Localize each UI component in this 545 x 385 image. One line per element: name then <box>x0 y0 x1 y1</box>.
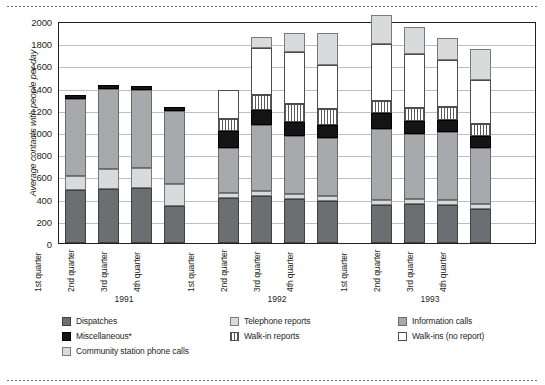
legend-swatch-walkin <box>398 332 407 341</box>
legend-swatch-misc <box>62 332 71 341</box>
bar-segment <box>218 148 239 194</box>
legend-item[interactable]: Telephone reports <box>230 316 310 326</box>
bar-column <box>218 90 239 243</box>
bar-segment <box>437 107 458 120</box>
y-axis-tick-labels: 2000180016001400120010008006004002000 <box>0 22 56 244</box>
bar-column <box>131 86 152 243</box>
x-tick-label: 4th quarter <box>132 246 178 292</box>
bar-segment <box>98 89 119 169</box>
bar-column <box>284 33 305 243</box>
bar-segment <box>131 188 152 244</box>
legend-item[interactable]: Walk-in reports <box>230 331 299 341</box>
bar-segment <box>371 113 392 129</box>
bar-segment <box>317 109 338 125</box>
bar-segment <box>65 99 86 177</box>
bar-segment <box>251 125 272 192</box>
bar-segment <box>470 49 491 80</box>
bar-segment <box>218 119 239 131</box>
y-tick-label: 1000 <box>31 128 52 139</box>
bar-segment <box>317 33 338 65</box>
x-tick-label: 4th quarter <box>285 246 331 292</box>
legend-label: Telephone reports <box>244 316 310 326</box>
y-tick-label: 1400 <box>31 83 52 94</box>
legend-swatch-walkinrep <box>230 332 239 341</box>
bar-column <box>317 33 338 243</box>
bar-segment <box>98 189 119 243</box>
bar-segment <box>164 111 185 184</box>
y-tick-label: 600 <box>36 172 52 183</box>
bar-segment <box>284 52 305 104</box>
bar-column <box>65 95 86 243</box>
bar-column <box>98 85 119 243</box>
bar-segment <box>218 90 239 119</box>
bar-segment <box>65 190 86 243</box>
bar-segment <box>470 209 491 243</box>
bar-segment <box>470 124 491 136</box>
bar-segment <box>251 196 272 243</box>
x-group-label: 1991 <box>115 294 134 304</box>
bar-column <box>251 37 272 243</box>
legend-item[interactable]: Miscellaneous* <box>62 331 132 341</box>
legend-label: Community station phone calls <box>76 346 189 356</box>
bar-segment <box>251 95 272 111</box>
bar-segment <box>317 65 338 109</box>
x-axis-tick-labels: 1st quarter2nd quarter3rd quarter4th qua… <box>58 246 536 292</box>
bar-segment <box>317 138 338 197</box>
y-tick-label: 1600 <box>31 61 52 72</box>
top-dotted-rule <box>6 4 539 7</box>
y-tick-label: 2000 <box>31 17 52 28</box>
bottom-dotted-rule <box>6 378 539 381</box>
legend-swatch-info <box>398 317 407 326</box>
legend-swatch-dispatch <box>62 317 71 326</box>
legend-label: Walk-in reports <box>244 331 299 341</box>
x-axis-group-labels: 199119921993 <box>58 294 536 308</box>
bar-segment <box>437 38 458 61</box>
bar-segment <box>284 122 305 136</box>
bar-segment <box>470 148 491 204</box>
legend-swatch-tel <box>230 317 239 326</box>
bar-segment <box>251 48 272 95</box>
bar-column <box>371 15 392 243</box>
bar-column <box>437 38 458 243</box>
bar-segment <box>164 206 185 243</box>
y-tick-label: 200 <box>36 216 52 227</box>
legend-item[interactable]: Information calls <box>398 316 472 326</box>
bar-segment <box>284 199 305 243</box>
bar-column <box>404 27 425 243</box>
legend-label: Walk-ins (no report) <box>412 331 484 341</box>
legend-label: Information calls <box>412 316 472 326</box>
bar-segment <box>437 132 458 200</box>
bar-segment <box>371 129 392 200</box>
bar-segment <box>437 205 458 243</box>
bar-segment <box>404 54 425 108</box>
bar-segment <box>164 184 185 206</box>
bar-segment <box>251 37 272 49</box>
stacked-bar-series <box>59 23 535 243</box>
legend-item[interactable]: Dispatches <box>62 316 117 326</box>
bar-segment <box>470 80 491 123</box>
bar-segment <box>284 33 305 52</box>
bar-segment <box>371 101 392 113</box>
bar-segment <box>437 60 458 106</box>
x-tick-label: 4th quarter <box>438 246 484 292</box>
bar-segment <box>404 134 425 199</box>
legend-item[interactable]: Walk-ins (no report) <box>398 331 484 341</box>
legend-label: Miscellaneous* <box>76 331 132 341</box>
bar-column <box>470 49 491 243</box>
bar-segment <box>317 201 338 243</box>
legend-item[interactable]: Community station phone calls <box>62 346 189 356</box>
y-tick-label: 400 <box>36 194 52 205</box>
chart-legend: DispatchesMiscellaneous*Community statio… <box>62 316 532 362</box>
bar-segment <box>470 136 491 148</box>
bar-segment <box>437 120 458 132</box>
bar-segment <box>404 108 425 121</box>
y-tick-label: 800 <box>36 150 52 161</box>
plot-area <box>58 22 536 244</box>
x-group-label: 1993 <box>421 294 440 304</box>
bar-segment <box>284 104 305 122</box>
bar-segment <box>65 176 86 189</box>
bar-column <box>164 107 185 243</box>
y-tick-label: 1800 <box>31 39 52 50</box>
bar-segment <box>284 136 305 194</box>
bar-segment <box>371 44 392 101</box>
